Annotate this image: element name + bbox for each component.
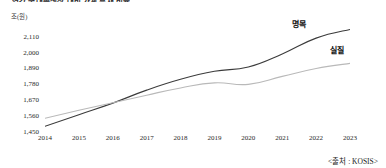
x-axis-tick: 2014 <box>38 134 52 142</box>
series-label-nominal: 명목 <box>292 18 306 29</box>
y-axis-tick: 1,450 <box>0 128 39 136</box>
y-axis-tick: 1,670 <box>0 96 39 104</box>
series-label-real: 실질 <box>330 44 344 55</box>
x-axis-tick: 2015 <box>72 134 86 142</box>
y-axis-tick: 1,890 <box>0 64 39 72</box>
x-axis-tick: 2017 <box>140 134 154 142</box>
chart-container: 연간 국내총생산 대비 가계 부채 비율 조(원) 1,4501,5601,67… <box>0 0 386 168</box>
line-series-real <box>45 63 350 118</box>
x-axis-tick: 2020 <box>241 134 255 142</box>
y-axis-tick-labels: 1,4501,5601,6701,7801,8902,0002,110 <box>0 28 39 132</box>
x-axis-tick-labels: 2014201520162017201820192020202120222023 <box>45 134 350 146</box>
series-lines <box>45 28 350 132</box>
y-axis-tick: 2,000 <box>0 49 39 57</box>
x-axis-tick: 2019 <box>207 134 221 142</box>
y-axis-tick: 1,560 <box>0 112 39 120</box>
chart-title: 연간 국내총생산 대비 가계 부채 비율 <box>12 0 130 2</box>
x-axis-tick: 2018 <box>174 134 188 142</box>
line-series-nominal <box>45 29 350 126</box>
y-axis-tick: 2,110 <box>0 33 39 41</box>
x-axis-tick: 2022 <box>309 134 323 142</box>
x-axis-tick: 2021 <box>275 134 289 142</box>
x-axis-tick: 2023 <box>343 134 357 142</box>
y-axis-unit-label: 조(원) <box>11 11 27 21</box>
x-axis-tick: 2016 <box>106 134 120 142</box>
plot-area <box>45 28 350 132</box>
y-axis-tick: 1,780 <box>0 80 39 88</box>
source-note: <출처 : KOSIS> <box>328 155 378 166</box>
